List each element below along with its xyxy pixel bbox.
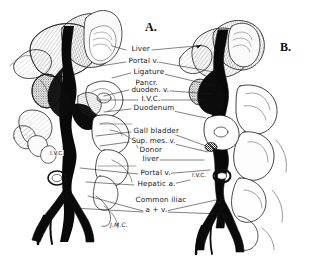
label-artery-plus-vein: a + v. — [145, 206, 168, 214]
label-liver: Liver — [131, 45, 150, 53]
label-ligature: Ligature — [133, 68, 165, 76]
label-portal-vein-upper: Portal v. — [128, 57, 159, 65]
inline-label-ivc-left: I.V.C. — [50, 150, 64, 156]
panel-letter-a: A. — [145, 20, 157, 35]
label-portal-vein-lower: Portal v. — [140, 169, 171, 177]
label-gall-bladder: Gall bladder — [133, 127, 180, 135]
label-superior-mesenteric-vein: Sup. mes. v. — [131, 137, 176, 145]
label-ivc: I.V.C. — [141, 95, 161, 103]
inline-label-ivc-right: I.V.C. — [192, 172, 206, 178]
panel-letter-b: B. — [280, 40, 291, 55]
label-donor-liver: liver — [142, 155, 159, 163]
anatomical-figure: A. B. Liver Portal v. Ligature Pancr. du… — [0, 0, 309, 257]
label-donor: Donor — [139, 146, 163, 154]
artist-signature: J.M.C. — [110, 221, 128, 228]
label-common-iliac: Common iliac — [135, 196, 187, 204]
label-hepatic-artery: Hepatic a. — [137, 180, 176, 188]
label-pancreaticoduodenal-vein: duoden. v. — [131, 86, 170, 94]
label-duodenum: Duodenum — [133, 104, 175, 112]
